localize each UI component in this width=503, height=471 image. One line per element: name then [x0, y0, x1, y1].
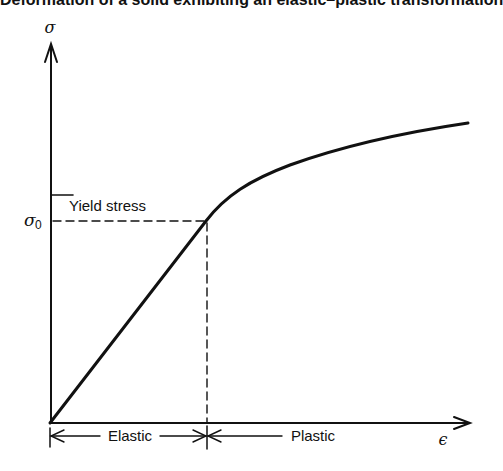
elastic-label: Elastic [108, 427, 153, 444]
plastic-label: Plastic [291, 427, 336, 444]
x-axis-label: ϵ [439, 430, 448, 449]
y-axis-label: σ [45, 18, 57, 37]
yield-stress-label: Yield stress [69, 197, 146, 214]
stress-strain-curve [50, 123, 468, 423]
sigma0-subscript: 0 [35, 218, 42, 232]
